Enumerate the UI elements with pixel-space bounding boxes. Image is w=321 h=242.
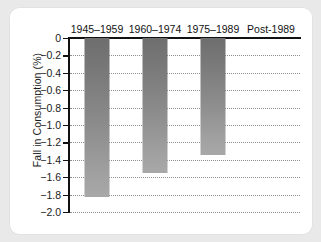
y-tick-label: −0.8 xyxy=(40,102,61,113)
y-tick-label: −1.8 xyxy=(40,189,61,200)
gridline xyxy=(70,212,300,213)
bar-1960-1974[interactable] xyxy=(143,38,168,173)
bar-group[interactable]: Post-1989 xyxy=(242,38,300,212)
x-axis-label: 1975–1989 xyxy=(187,24,240,35)
y-tick-label: −1.2 xyxy=(40,137,61,148)
x-axis-label: Post-1989 xyxy=(247,24,295,35)
y-tick-label: −1.0 xyxy=(40,120,61,131)
screenshot-root: Fall in Consumption (%) 0 −0.2 −0.4 −0.6… xyxy=(0,0,321,242)
bar-group[interactable]: 1975–1989 xyxy=(184,38,242,212)
bar-chart: Fall in Consumption (%) 0 −0.2 −0.4 −0.6… xyxy=(10,8,312,234)
y-tick-label: −1.4 xyxy=(40,155,61,166)
y-tick-label: −1.6 xyxy=(40,172,61,183)
y-tick-label: −0.6 xyxy=(40,85,61,96)
y-tick-label: −0.4 xyxy=(40,68,61,79)
bar-group[interactable]: 1960–1974 xyxy=(126,38,184,212)
chart-card: Fall in Consumption (%) 0 −0.2 −0.4 −0.6… xyxy=(10,8,312,234)
y-tick-label: −0.2 xyxy=(40,50,61,61)
bar-1975-1989[interactable] xyxy=(201,38,226,155)
bar-group[interactable]: 1945–1959 xyxy=(68,38,126,212)
x-axis-label: 1945–1959 xyxy=(71,24,124,35)
x-axis-label: 1960–1974 xyxy=(129,24,182,35)
y-tick-label: −2.0 xyxy=(40,207,61,218)
y-tick-label: 0 xyxy=(55,33,61,44)
plot-region: 0 −0.2 −0.4 −0.6 −0.8 −1.0 −1.2 xyxy=(68,38,300,212)
y-tick-mark xyxy=(63,212,69,213)
bar-1945-1959[interactable] xyxy=(85,38,110,197)
